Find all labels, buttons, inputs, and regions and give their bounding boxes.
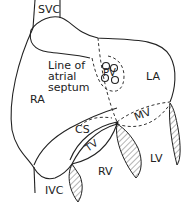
ivc-vessel: [34, 167, 35, 193]
crux-point: [115, 121, 118, 124]
label-la: LA: [146, 70, 160, 83]
ventricular-septum: [117, 124, 142, 178]
label-mv: MV: [132, 105, 153, 124]
label-tv: TV: [82, 137, 100, 154]
label-ra: RA: [30, 93, 45, 106]
ra-inner-outline: [34, 108, 117, 165]
label-ivc: IVC: [45, 184, 64, 197]
label-septum-3: septum: [48, 81, 89, 94]
ra-lower-outline: [34, 164, 72, 179]
label-rv: RV: [98, 165, 113, 178]
lv-wall: [169, 103, 180, 165]
crista-outline: [30, 30, 90, 58]
label-lv: LV: [150, 152, 163, 165]
label-cs: CS: [75, 123, 90, 136]
label-pv: PV: [103, 67, 116, 78]
label-svc: SVC: [38, 3, 61, 16]
heart-diagram: SVC Line of atrial septum PV LA RA CS MV…: [0, 0, 186, 208]
ventricular-septum-left: [69, 164, 82, 202]
